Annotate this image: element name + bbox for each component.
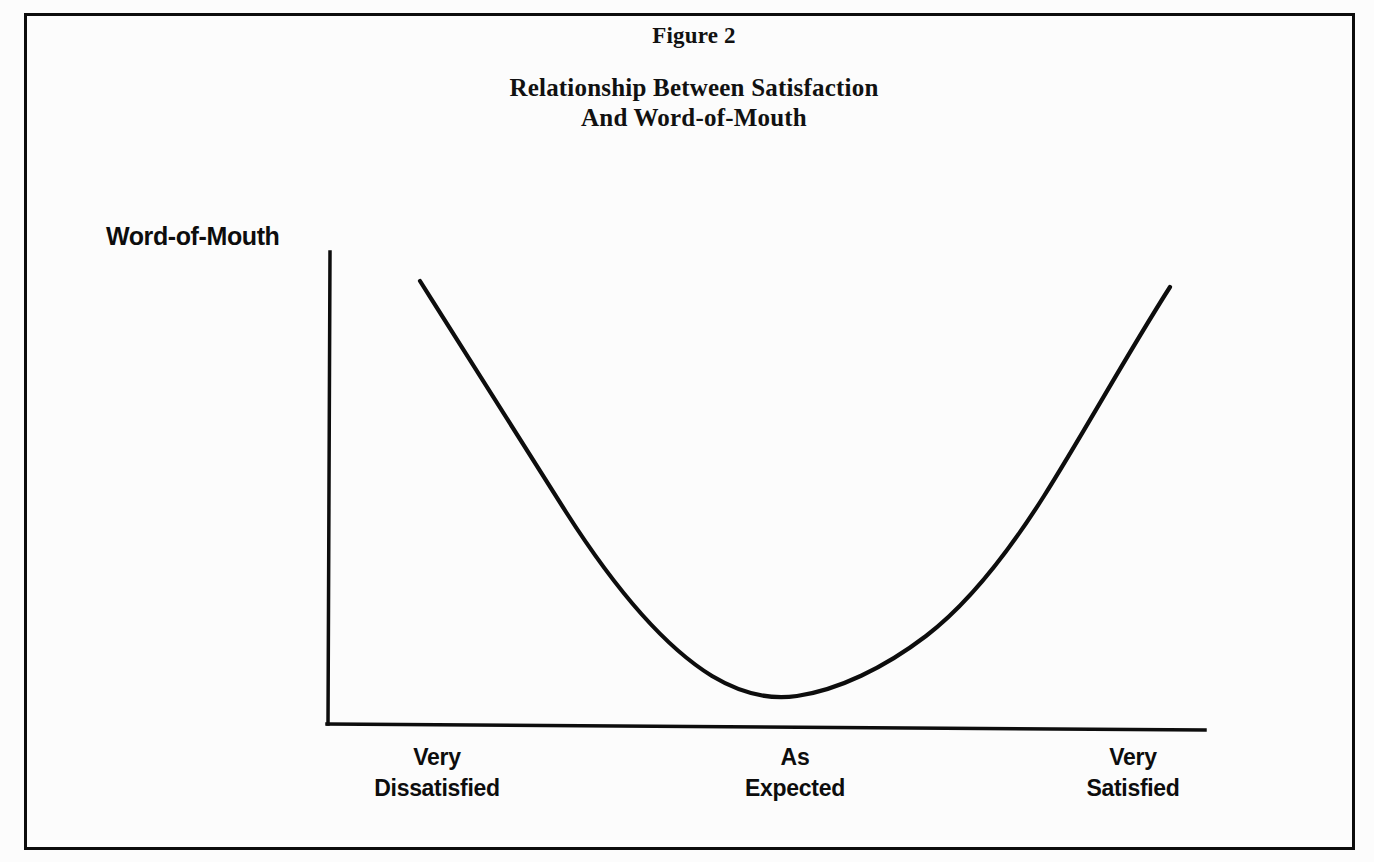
x-tick-label-line2: Dissatisfied [287, 773, 587, 804]
x-tick-label-line1: As [645, 742, 945, 773]
figure-page: Figure 2 Relationship Between Satisfacti… [0, 0, 1374, 862]
y-axis-line [328, 252, 330, 724]
plot-area [0, 0, 1374, 862]
x-tick-label-line2: Expected [645, 773, 945, 804]
x-tick-label-very-satisfied: Very Satisfied [983, 742, 1283, 804]
x-tick-label-line1: Very [983, 742, 1283, 773]
x-tick-label-line2: Satisfied [983, 773, 1283, 804]
x-axis-line [327, 724, 1205, 730]
x-tick-label-very-dissatisfied: Very Dissatisfied [287, 742, 587, 804]
x-tick-label-as-expected: As Expected [645, 742, 945, 804]
word-of-mouth-curve [420, 281, 1170, 697]
x-tick-label-line1: Very [287, 742, 587, 773]
